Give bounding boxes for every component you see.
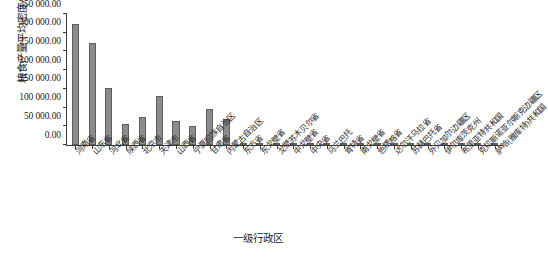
bar — [72, 24, 79, 145]
y-axis-tick-label: 300 000.00 — [19, 18, 61, 28]
y-axis-tick-label: 100 000.00 — [19, 93, 61, 103]
bar — [89, 43, 96, 145]
y-axis-tick-label: 350 000.00 — [19, 0, 61, 9]
y-axis-tick-label: 250 000.00 — [19, 37, 61, 47]
y-axis-tick-label: 150 000.00 — [19, 75, 61, 85]
y-axis-tick-label: 50 000.00 — [24, 112, 61, 122]
y-axis-tick-label: 0.00 — [45, 131, 61, 141]
y-axis-tick-label: 200 000.00 — [19, 56, 61, 66]
x-axis-title: 一级行政区 — [0, 233, 516, 245]
x-axis-tick-labels: 河南省山东省河北省陕西省北京市天津市山西省宁夏回族自治区甘肃省内蒙古自治区东方省… — [66, 150, 503, 246]
